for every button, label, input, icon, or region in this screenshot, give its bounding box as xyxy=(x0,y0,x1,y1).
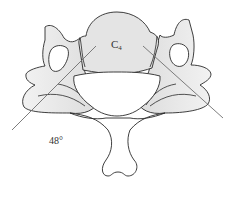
right-foramen-transversarium xyxy=(170,44,189,67)
spinous-process xyxy=(70,113,165,176)
angle-label: 48° xyxy=(49,135,63,146)
vertebra-diagram: C4 48° xyxy=(0,0,234,200)
vertebral-body xyxy=(79,12,159,74)
